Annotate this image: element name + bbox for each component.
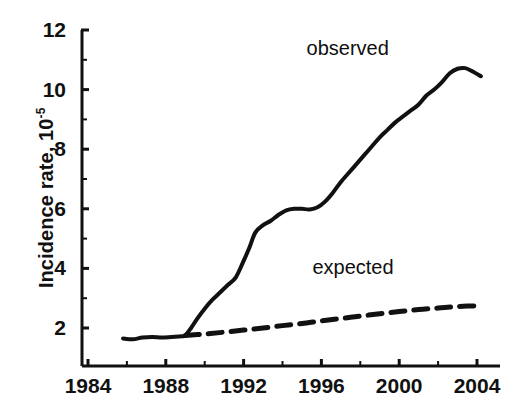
x-tick-label: 2004 bbox=[432, 375, 518, 396]
series-line-observed bbox=[123, 68, 481, 339]
annotation-expected: expected bbox=[312, 257, 393, 277]
series-line-expected bbox=[185, 306, 481, 336]
y-tick-label: 2 bbox=[26, 317, 66, 338]
x-tick-label: 1992 bbox=[199, 375, 289, 396]
x-tick-label: 2000 bbox=[354, 375, 444, 396]
y-tick-label: 4 bbox=[26, 257, 66, 278]
x-tick-label: 1988 bbox=[121, 375, 211, 396]
y-tick-label: 10 bbox=[26, 79, 66, 100]
x-tick-label: 1996 bbox=[276, 375, 366, 396]
y-tick-label: 6 bbox=[26, 198, 66, 219]
y-tick-label: 8 bbox=[26, 138, 66, 159]
axis-lines bbox=[82, 30, 500, 366]
y-tick-label: 12 bbox=[26, 19, 66, 40]
data-series-layer bbox=[123, 68, 481, 339]
chart-figure: Incidence rate, 10-5 24681012 1984198819… bbox=[0, 0, 518, 411]
x-tick-label: 1984 bbox=[43, 375, 133, 396]
annotation-observed: observed bbox=[307, 38, 389, 58]
plot-canvas bbox=[0, 0, 518, 411]
